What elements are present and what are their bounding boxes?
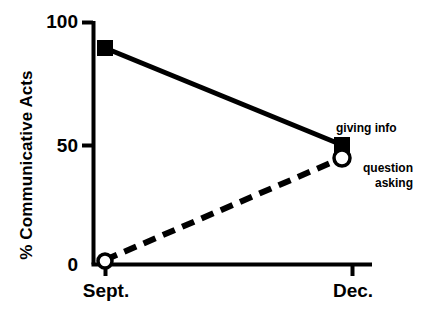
chart-figure: % Communicative Acts 100 50 0 Sept. Dec.…	[0, 0, 425, 309]
y-tick-label-100: 100	[26, 12, 78, 31]
question-asking-marker-sept	[98, 254, 112, 268]
series-label-question: question	[288, 161, 413, 175]
y-tick-label-0: 0	[26, 255, 78, 274]
x-tick-label-dec: Dec.	[307, 281, 399, 300]
y-tick-label-50: 50	[26, 136, 78, 155]
y-axis-title: % Communicative Acts	[14, 45, 40, 285]
giving-info-line	[105, 48, 342, 145]
series-label-giving-info: giving info	[336, 121, 397, 135]
axes	[82, 21, 372, 276]
series-label-asking: asking	[288, 176, 413, 190]
x-tick-label-sept: Sept.	[60, 281, 152, 300]
series-giving-info	[97, 40, 350, 153]
giving-info-marker-sept	[97, 40, 113, 56]
